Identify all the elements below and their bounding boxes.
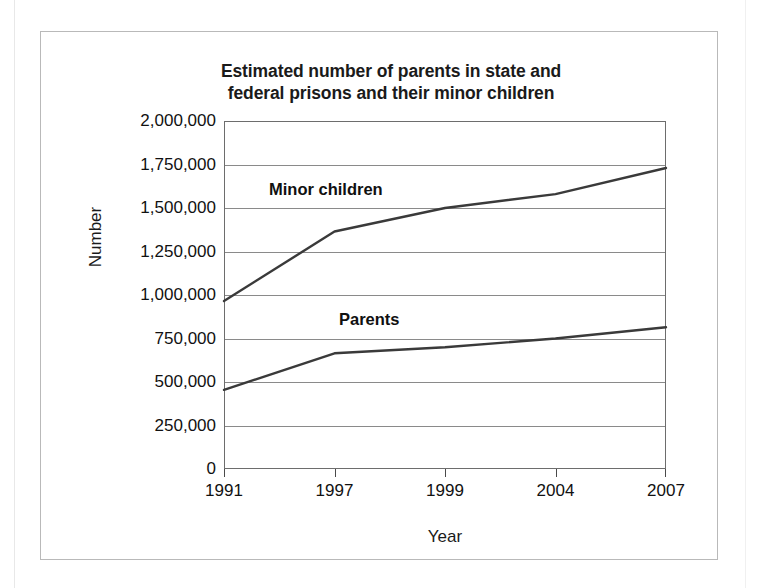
- x-tick-label: 2004: [511, 481, 601, 501]
- chart-title-line-1: Estimated number of parents in state and: [161, 60, 621, 82]
- y-tick-label: 1,500,000: [96, 198, 216, 218]
- x-tick-label: 2007: [621, 481, 711, 501]
- series-label-minor-children: Minor children: [269, 180, 383, 199]
- x-tick-mark: [224, 469, 225, 477]
- y-tick-label: 250,000: [96, 416, 216, 436]
- x-tick-label: 1999: [400, 481, 490, 501]
- x-tick-mark: [335, 469, 336, 477]
- y-tick-label: 1,750,000: [96, 155, 216, 175]
- y-tick-label: 1,250,000: [96, 242, 216, 262]
- series-label-parents: Parents: [339, 310, 400, 329]
- y-tick-label: 1,000,000: [96, 285, 216, 305]
- x-tick-mark: [556, 469, 557, 477]
- page-edge-left: [14, 0, 15, 588]
- x-axis-tick-labels: 19911997199920042007: [224, 469, 666, 479]
- x-tick-label: 1997: [290, 481, 380, 501]
- chart-title-line-2: federal prisons and their minor children: [161, 82, 621, 104]
- y-tick-label: 750,000: [96, 329, 216, 349]
- x-tick-mark: [445, 469, 446, 477]
- chart-figure-frame: Estimated number of parents in state and…: [40, 31, 718, 560]
- y-tick-label: 2,000,000: [96, 111, 216, 131]
- x-tick-mark: [665, 469, 666, 477]
- page-edge-right: [745, 0, 746, 588]
- series-line-parents: [224, 327, 666, 390]
- x-axis-title: Year: [224, 527, 666, 547]
- figure-page: Estimated number of parents in state and…: [0, 0, 760, 588]
- y-axis-tick-labels: 2,000,0001,750,0001,500,0001,250,0001,00…: [88, 121, 216, 469]
- y-tick-label: 0: [96, 459, 216, 479]
- x-tick-label: 1991: [179, 481, 269, 501]
- series-layer: [224, 121, 666, 469]
- y-tick-label: 500,000: [96, 372, 216, 392]
- chart-title: Estimated number of parents in state and…: [161, 60, 621, 104]
